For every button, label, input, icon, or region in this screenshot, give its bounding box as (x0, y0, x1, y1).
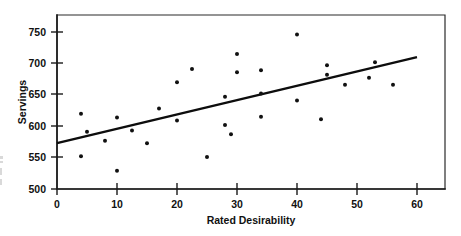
data-point (259, 115, 263, 119)
data-point (367, 76, 371, 80)
data-point (325, 63, 329, 67)
y-tick-label: 650 (28, 88, 46, 100)
x-tick-label: 0 (54, 198, 60, 210)
x-axis-title: Rated Desirability (207, 214, 296, 226)
x-tick-label: 40 (291, 198, 303, 210)
data-point (295, 33, 299, 37)
x-tick-label: 10 (111, 198, 123, 210)
y-axis-title: Servings (16, 80, 28, 125)
data-point (259, 92, 263, 96)
scatter-points-group (79, 33, 395, 173)
axis-lines (57, 15, 445, 189)
scatter-plot: 750 700 650 600 550 500 0 10 20 30 40 50… (0, 0, 461, 236)
data-point (373, 60, 377, 64)
x-tick-label: 60 (411, 198, 423, 210)
x-axis-tick-labels: 0 10 20 30 40 50 60 (54, 198, 423, 210)
data-point (85, 130, 89, 134)
regression-trend-line (57, 57, 417, 143)
plot-frame (57, 15, 445, 189)
data-point (79, 112, 83, 116)
y-tick-label: 600 (28, 120, 46, 132)
data-point (235, 52, 239, 56)
data-point (205, 155, 209, 159)
data-point (115, 115, 119, 119)
data-point (391, 83, 395, 87)
data-point (115, 169, 119, 173)
figure-container: 750 700 650 600 550 500 0 10 20 30 40 50… (0, 0, 461, 236)
y-tick-label: 550 (28, 151, 46, 163)
data-point (259, 68, 263, 72)
data-point (175, 119, 179, 123)
data-point (130, 129, 134, 133)
data-point (223, 95, 227, 99)
data-point (325, 73, 329, 77)
scan-edge-artifact (0, 156, 3, 185)
data-point (343, 83, 347, 87)
x-tick-label: 20 (171, 198, 183, 210)
y-tick-label: 750 (28, 26, 46, 38)
data-point (79, 154, 83, 158)
y-axis-tick-labels: 750 700 650 600 550 500 (28, 26, 46, 195)
x-tick-label: 50 (351, 198, 363, 210)
data-point (295, 98, 299, 102)
x-tick-label: 30 (231, 198, 243, 210)
data-point (145, 141, 149, 145)
data-point (175, 80, 179, 84)
data-point (103, 139, 107, 143)
data-point (319, 117, 323, 121)
data-point (223, 123, 227, 127)
data-point (229, 132, 233, 136)
y-tick-label: 700 (28, 57, 46, 69)
data-point (235, 70, 239, 74)
data-point (190, 67, 194, 71)
y-tick-label: 500 (28, 183, 46, 195)
data-point (157, 107, 161, 111)
